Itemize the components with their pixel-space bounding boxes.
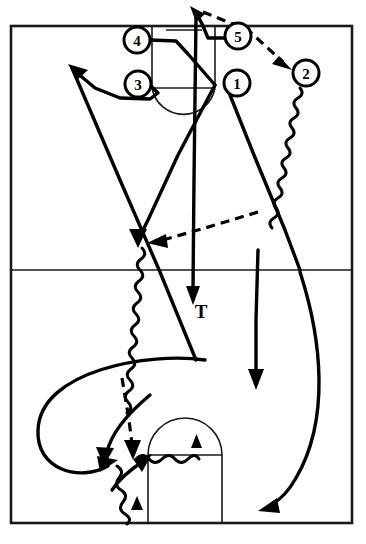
movement-paths [38,6,319,524]
play-diagram-canvas: 4 5 3 1 2 T [0,0,366,544]
screen-marker-bottom [131,496,143,510]
screen-marker-top [191,434,202,448]
dribble-player-2 [270,88,302,228]
basketball-court-svg: 4 5 3 1 2 T [0,0,366,544]
arrowhead-pass-5-to-2 [272,56,292,70]
player-5-label: 5 [234,29,242,45]
cut-right-corner-curl [272,272,319,504]
cut-top-right-to-baseline [228,90,300,270]
arrowhead-right-corner [258,498,280,513]
player-2-label: 2 [302,66,310,82]
arrowhead-cut-5 [190,6,205,22]
player-marker-2[interactable]: 2 [293,60,319,86]
arrowhead-cut-2 [248,369,264,390]
cut-player-4-across [150,40,215,85]
player-4-label: 4 [133,33,141,49]
pass-to-high-post [163,212,258,240]
cut-player-2-drive [256,250,258,372]
player-marker-3[interactable]: 3 [125,71,151,97]
player-marker-1[interactable]: 1 [224,70,250,96]
cut-player-1-to-post [193,16,196,290]
player-marker-5[interactable]: 5 [225,23,251,49]
annotation-label-t: T [195,301,208,322]
player-3-label: 3 [134,77,142,93]
dribble-high-post-to-block [125,248,145,413]
annotations: T [195,301,208,322]
player-marker-4[interactable]: 4 [124,27,150,53]
cut-baseline-to-wing [72,68,196,360]
bottom-freethrow-circle [148,418,222,455]
player-1-label: 1 [233,76,241,92]
cut-player-4-diagonal [141,85,215,234]
